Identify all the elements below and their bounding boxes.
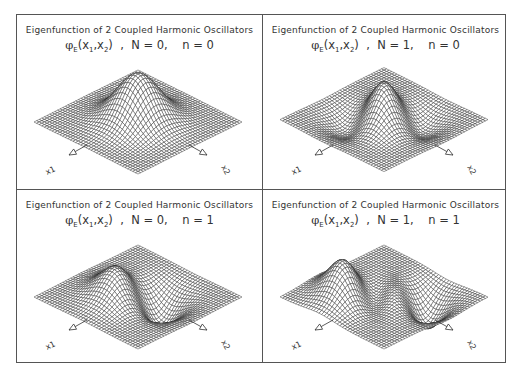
- svg-text:x1: x1: [44, 340, 57, 352]
- svg-text:x2: x2: [465, 164, 478, 177]
- surface-plot: x1x2: [17, 190, 262, 364]
- figure-frame: Eigenfunction of 2 Coupled Harmonic Osci…: [16, 14, 506, 363]
- svg-text:x2: x2: [465, 339, 478, 352]
- svg-text:x2: x2: [219, 339, 232, 352]
- panel-N1-n0: Eigenfunction of 2 Coupled Harmonic Osci…: [263, 15, 508, 189]
- surface-plot: x1x2: [263, 15, 508, 189]
- svg-text:x1: x1: [290, 165, 303, 177]
- surface-plot: x1x2: [17, 15, 262, 189]
- panel-N0-n1: Eigenfunction of 2 Coupled Harmonic Osci…: [17, 190, 262, 364]
- panel-N1-n1: Eigenfunction of 2 Coupled Harmonic Osci…: [263, 190, 508, 364]
- svg-text:x2: x2: [219, 164, 232, 177]
- svg-text:x1: x1: [290, 340, 303, 352]
- svg-text:x1: x1: [44, 165, 57, 177]
- surface-plot: x1x2: [263, 190, 508, 364]
- panel-N0-n0: Eigenfunction of 2 Coupled Harmonic Osci…: [17, 15, 262, 189]
